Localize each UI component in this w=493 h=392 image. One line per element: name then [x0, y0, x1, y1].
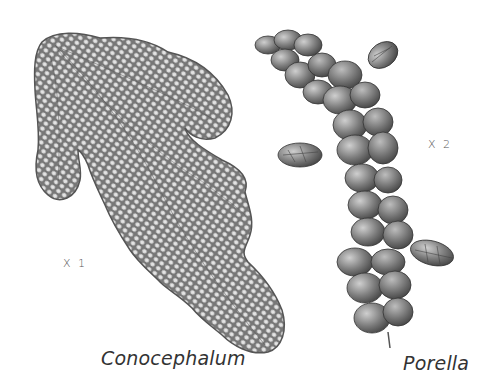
porella-magnification: X 2: [428, 138, 452, 151]
conocephalum-caption: Conocephalum: [101, 347, 246, 369]
illustration-plate: [0, 0, 493, 392]
conocephalum-magnification: X 1: [63, 257, 87, 270]
porella-caption: Porella: [403, 352, 469, 374]
porella-shoot: [255, 30, 456, 348]
conocephalum-thallus: [35, 33, 285, 353]
